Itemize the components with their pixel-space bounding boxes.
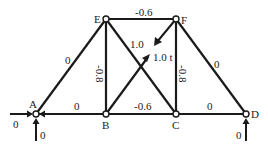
truss-diagram: A B C D E F 0 -0.6 0 -0.6 0 -0.8 -0.8 1.… [0, 0, 268, 154]
force-label-AE: 0 [65, 54, 71, 66]
reaction-D-vertical-arrowhead-icon [243, 118, 250, 124]
reaction-A-vertical-label: 0 [40, 129, 46, 141]
reaction-A-horizontal-arrowhead-icon [27, 111, 33, 118]
reaction-D-vertical-label: 0 [236, 129, 242, 141]
node-E [103, 16, 109, 22]
node-D [243, 111, 249, 117]
node-C [173, 111, 179, 117]
node-label-D: D [251, 108, 259, 120]
reaction-A-right-arrowhead-icon [39, 111, 45, 118]
force-label-CF: -0.8 [177, 65, 189, 83]
force-label-EF: -0.6 [135, 6, 153, 18]
unit-load-label: 1.0 t [153, 51, 173, 63]
node-label-E: E [94, 13, 101, 25]
node-label-B: B [102, 119, 109, 131]
node-label-F: F [181, 14, 187, 26]
bf-arrow-icon [142, 54, 150, 62]
force-label-CD: 0 [207, 100, 213, 112]
force-label-BC: -0.6 [134, 100, 152, 112]
reaction-A-vertical-arrowhead-icon [33, 118, 40, 124]
unit-load-arrow [157, 19, 176, 42]
force-label-BE: -0.8 [94, 65, 106, 83]
force-label-DF: 0 [214, 58, 220, 70]
node-label-A: A [29, 98, 37, 110]
node-F [173, 16, 179, 22]
reaction-A-horizontal-label: 0 [13, 118, 19, 130]
node-B [103, 111, 109, 117]
node-A [33, 111, 39, 117]
force-label-AB: 0 [74, 100, 80, 112]
node-label-C: C [172, 119, 179, 131]
force-label-EC: 1.0 [130, 38, 144, 50]
